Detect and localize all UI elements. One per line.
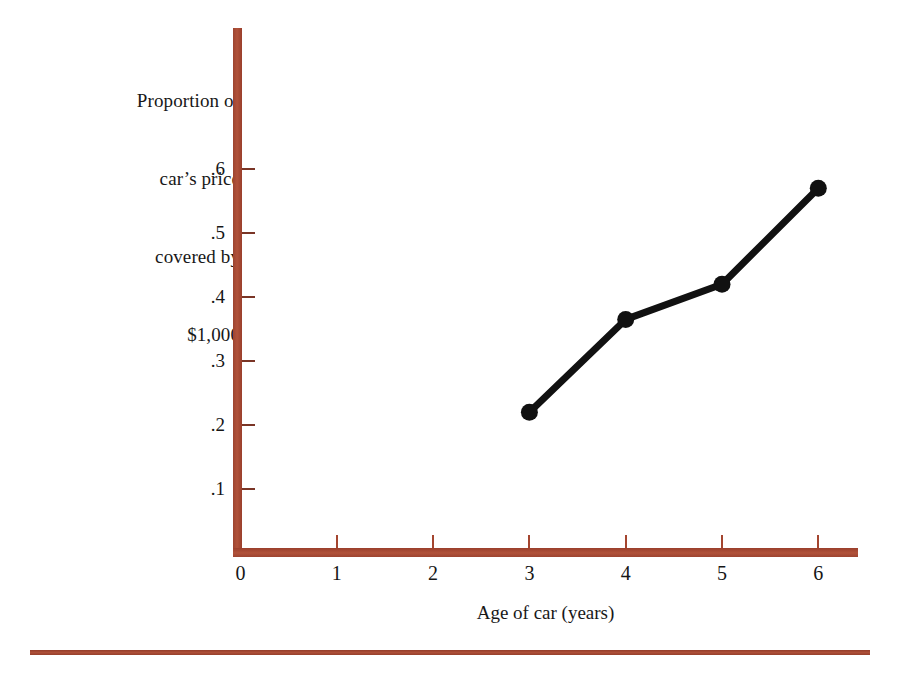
chart-figure: Proportion of car’s price covered by $1,… (0, 0, 900, 677)
data-point-3 (521, 404, 538, 421)
data-point-5 (714, 276, 731, 293)
data-point-4 (617, 311, 634, 328)
footer-rule (30, 650, 870, 655)
plot-area (0, 0, 900, 677)
data-point-6 (810, 180, 827, 197)
x-axis-title: Age of car (years) (233, 602, 858, 624)
data-series-line (529, 188, 818, 412)
